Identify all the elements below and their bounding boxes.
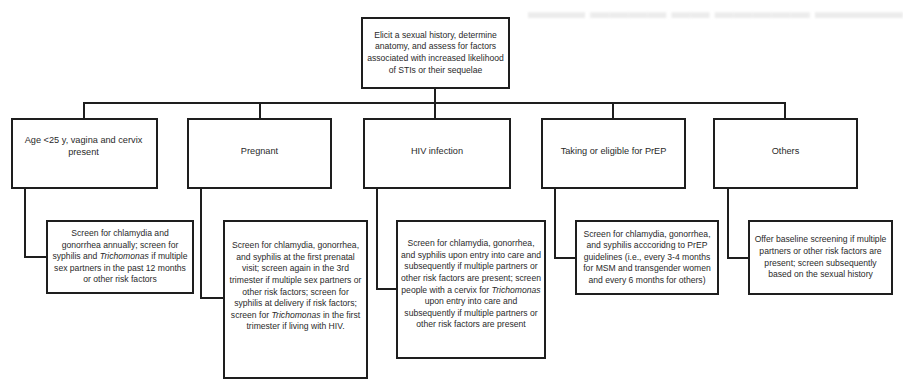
connector-drop-4 bbox=[612, 102, 614, 119]
connector-elbow-4-vertical bbox=[554, 188, 556, 259]
connector-drop-3 bbox=[434, 102, 436, 119]
category-box-others: Others bbox=[713, 118, 858, 189]
connector-elbow-4-horizontal bbox=[554, 257, 576, 259]
organism-name-italic: Trichomonas bbox=[271, 310, 320, 320]
recommendation-text: Screen for chlamydia, gonorrhea, and syp… bbox=[228, 240, 363, 333]
connector-drop-5 bbox=[784, 102, 786, 119]
category-box-age-under-25: Age <25 y, vagina and cervix present bbox=[11, 118, 158, 189]
root-assessment-text: Elicit a sexual history, determine anato… bbox=[366, 30, 505, 76]
category-label: Pregnant bbox=[241, 146, 278, 158]
recommendation-text: Offer baseline screening if multiple par… bbox=[753, 234, 888, 280]
recommendation-box-others: Offer baseline screening if multiple par… bbox=[748, 220, 893, 295]
connector-drop-1 bbox=[83, 102, 85, 119]
recommendation-text: Screen for chlamydia and gonorrhea annua… bbox=[51, 228, 189, 286]
connector-elbow-1-horizontal bbox=[24, 256, 47, 258]
recommendation-box-pregnant: Screen for chlamydia, gonorrhea, and syp… bbox=[223, 220, 368, 379]
connector-elbow-5-horizontal bbox=[727, 257, 749, 259]
recommendation-box-age-under-25: Screen for chlamydia and gonorrhea annua… bbox=[46, 220, 194, 294]
organism-name-italic: Trichomonas bbox=[100, 251, 149, 261]
recommendation-box-prep: Screen for chlamydia, gonorrhea, and syp… bbox=[575, 220, 719, 295]
connector-elbow-2-horizontal bbox=[200, 297, 224, 299]
recommendation-box-hiv-infection: Screen for chlamydia, gonorrhea, and syp… bbox=[396, 220, 546, 359]
recommendation-text: Screen for chlamydia, gonorrhea, and syp… bbox=[580, 229, 714, 287]
connector-elbow-3-horizontal bbox=[376, 288, 397, 290]
category-box-prep: Taking or eligible for PrEP bbox=[541, 118, 686, 189]
category-box-hiv-infection: HIV infection bbox=[363, 118, 511, 189]
root-assessment-box: Elicit a sexual history, determine anato… bbox=[361, 17, 510, 89]
connector-elbow-1-vertical bbox=[24, 188, 26, 258]
category-label: Taking or eligible for PrEP bbox=[561, 146, 667, 158]
category-box-pregnant: Pregnant bbox=[187, 118, 332, 189]
category-label: HIV infection bbox=[411, 146, 463, 158]
connector-elbow-3-vertical bbox=[376, 188, 378, 290]
connector-drop-2 bbox=[259, 102, 261, 119]
recommendation-text: Screen for chlamydia, gonorrhea, and syp… bbox=[401, 238, 541, 331]
connector-elbow-5-vertical bbox=[727, 188, 729, 259]
organism-name-italic: Trichomonas bbox=[492, 285, 541, 295]
category-label: Age <25 y, vagina and cervix present bbox=[15, 135, 152, 158]
category-label: Others bbox=[772, 146, 800, 158]
connector-elbow-2-vertical bbox=[200, 188, 202, 299]
